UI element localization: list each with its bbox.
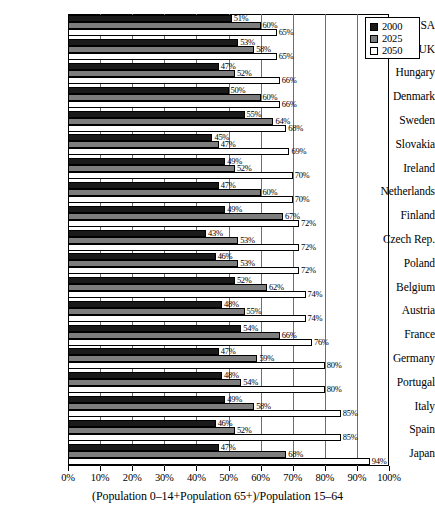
bar-hungary-2050 bbox=[68, 77, 280, 84]
legend-label: 2025 bbox=[382, 34, 402, 45]
bar-uk-2025 bbox=[68, 46, 254, 53]
bar-value-label: 65% bbox=[279, 52, 294, 61]
bar-value-label: 80% bbox=[327, 385, 342, 394]
x-axis-tick bbox=[325, 466, 326, 471]
bar-value-label: 70% bbox=[295, 195, 310, 204]
bar-sweden-2000 bbox=[68, 111, 245, 118]
bar-value-label: 85% bbox=[343, 409, 358, 418]
category-label-czech-rep: Czech Rep. bbox=[371, 234, 435, 246]
bar-value-label: 66% bbox=[282, 100, 297, 109]
bar-italy-2025 bbox=[68, 403, 254, 410]
bar-spain-2050 bbox=[68, 434, 341, 441]
bar-finland-2050 bbox=[68, 220, 299, 227]
bar-value-label: 66% bbox=[282, 76, 297, 85]
legend-entry-2000: 2000 bbox=[370, 21, 415, 33]
bar-hungary-2000 bbox=[68, 63, 219, 70]
bar-netherlands-2025 bbox=[68, 189, 261, 196]
bar-denmark-2025 bbox=[68, 94, 261, 101]
bar-japan-2050 bbox=[68, 458, 370, 465]
bar-czech-rep-2050 bbox=[68, 244, 299, 251]
bar-netherlands-2000 bbox=[68, 182, 219, 189]
bar-netherlands-2050 bbox=[68, 196, 293, 203]
x-axis-tick-label: 100% bbox=[369, 472, 409, 483]
bar-belgium-2025 bbox=[68, 284, 267, 291]
x-axis-tick bbox=[261, 466, 262, 471]
bar-austria-2050 bbox=[68, 315, 306, 322]
bar-poland-2000 bbox=[68, 253, 216, 260]
legend-swatch-icon bbox=[370, 47, 378, 55]
category-label-sweden: Sweden bbox=[371, 115, 435, 127]
category-label-belgium: Belgium bbox=[371, 282, 435, 294]
x-axis-tick bbox=[196, 466, 197, 471]
bar-spain-2025 bbox=[68, 427, 235, 434]
category-label-ireland: Ireland bbox=[371, 163, 435, 175]
bar-usa-2050 bbox=[68, 29, 277, 36]
bar-value-label: 65% bbox=[279, 28, 294, 37]
bar-uk-2000 bbox=[68, 39, 238, 46]
category-label-spain: Spain bbox=[371, 424, 435, 436]
bar-value-label: 74% bbox=[308, 314, 323, 323]
bar-france-2050 bbox=[68, 339, 312, 346]
x-axis-tick bbox=[293, 466, 294, 471]
bar-belgium-2050 bbox=[68, 291, 306, 298]
bar-germany-2050 bbox=[68, 362, 325, 369]
legend-swatch-icon bbox=[370, 23, 378, 31]
bar-denmark-2000 bbox=[68, 87, 229, 94]
bar-value-label: 72% bbox=[301, 219, 316, 228]
bar-value-label: 72% bbox=[301, 243, 316, 252]
x-axis-tick bbox=[389, 466, 390, 471]
category-label-hungary: Hungary bbox=[371, 67, 435, 79]
bar-hungary-2025 bbox=[68, 70, 235, 77]
bar-value-label: 72% bbox=[301, 266, 316, 275]
legend-entry-2025: 2025 bbox=[370, 33, 415, 45]
bar-finland-2000 bbox=[68, 206, 225, 213]
bar-portugal-2000 bbox=[68, 372, 222, 379]
legend-label: 2000 bbox=[382, 22, 402, 33]
bar-portugal-2050 bbox=[68, 386, 325, 393]
category-label-portugal: Portugal bbox=[371, 377, 435, 389]
bar-denmark-2050 bbox=[68, 101, 280, 108]
bar-usa-2025 bbox=[68, 22, 261, 29]
bar-france-2025 bbox=[68, 332, 280, 339]
x-axis-title: (Population 0–14+Population 65+)/Populat… bbox=[0, 489, 435, 504]
bar-value-label: 69% bbox=[291, 147, 306, 156]
category-label-denmark: Denmark bbox=[371, 91, 435, 103]
bar-japan-2025 bbox=[68, 451, 286, 458]
bar-france-2000 bbox=[68, 325, 241, 332]
legend-label: 2050 bbox=[382, 46, 402, 57]
bar-finland-2025 bbox=[68, 213, 283, 220]
bar-portugal-2025 bbox=[68, 379, 241, 386]
bar-value-label: 68% bbox=[288, 124, 303, 133]
category-label-netherlands: Netherlands bbox=[371, 186, 435, 198]
bar-czech-rep-2000 bbox=[68, 230, 206, 237]
chart-legend: 200020252050 bbox=[365, 17, 420, 59]
category-label-finland: Finland bbox=[371, 210, 435, 222]
x-axis-tick bbox=[357, 466, 358, 471]
bar-sweden-2025 bbox=[68, 118, 273, 125]
bar-belgium-2000 bbox=[68, 277, 235, 284]
category-label-poland: Poland bbox=[371, 258, 435, 270]
x-axis-tick bbox=[229, 466, 230, 471]
bar-austria-2025 bbox=[68, 308, 245, 315]
category-label-germany: Germany bbox=[371, 353, 435, 365]
x-axis-tick bbox=[164, 466, 165, 471]
bar-germany-2025 bbox=[68, 355, 257, 362]
legend-swatch-icon bbox=[370, 35, 378, 43]
bar-slovakia-2000 bbox=[68, 134, 212, 141]
bar-poland-2050 bbox=[68, 267, 299, 274]
bar-japan-2000 bbox=[68, 444, 219, 451]
x-axis-tick bbox=[68, 466, 69, 471]
bar-value-label: 70% bbox=[295, 171, 310, 180]
bar-slovakia-2025 bbox=[68, 141, 219, 148]
bar-ireland-2050 bbox=[68, 172, 293, 179]
dependency-ratio-bar-chart: 51%60%65%53%58%65%47%52%66%50%60%66%55%6… bbox=[0, 0, 435, 515]
bar-uk-2050 bbox=[68, 53, 277, 60]
category-label-italy: Italy bbox=[371, 401, 435, 413]
bar-ireland-2025 bbox=[68, 165, 235, 172]
bar-italy-2000 bbox=[68, 396, 225, 403]
bar-value-label: 76% bbox=[314, 338, 329, 347]
category-label-slovakia: Slovakia bbox=[371, 139, 435, 151]
category-label-france: France bbox=[371, 329, 435, 341]
bar-italy-2050 bbox=[68, 410, 341, 417]
x-axis-tick bbox=[132, 466, 133, 471]
